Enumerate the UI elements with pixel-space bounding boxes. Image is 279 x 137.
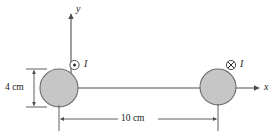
current-out-of-page-icon: [70, 60, 79, 69]
vertical-dimension-label: 4 cm: [5, 83, 24, 93]
left-current-label: I: [84, 59, 87, 69]
y-axis-label: y: [76, 4, 80, 14]
right-conductor-circle: [200, 69, 236, 105]
left-conductor-circle: [40, 69, 78, 107]
current-into-page-icon: [226, 60, 235, 69]
right-current-label: I: [240, 59, 243, 69]
x-axis-label: x: [264, 82, 268, 92]
figure-canvas: y x I I 4 cm 10 cm: [0, 0, 279, 137]
horizontal-dimension-label: 10 cm: [121, 114, 144, 124]
